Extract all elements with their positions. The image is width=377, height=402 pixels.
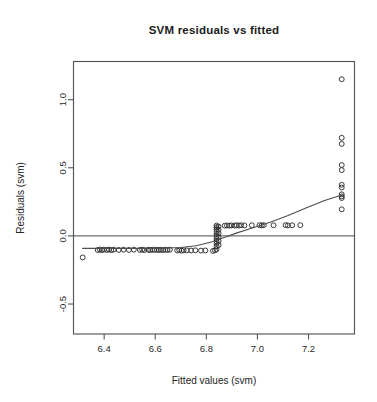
y-tick-label: 0.5 — [57, 161, 68, 174]
chart-title: SVM residuals vs fitted — [149, 24, 280, 36]
y-tick-label: 1.0 — [57, 93, 68, 106]
x-axis-title: Fitted values (svm) — [172, 375, 256, 386]
x-tick-label: 6.6 — [149, 343, 162, 354]
y-tick-label: 0.0 — [57, 229, 68, 242]
chart-container: SVM residuals vs fitted 6.46.66.87.07.2 … — [0, 0, 377, 402]
y-tick-label: -0.5 — [57, 296, 68, 312]
x-tick-label: 7.2 — [302, 343, 315, 354]
x-tick-label: 6.8 — [200, 343, 213, 354]
chart-background — [0, 0, 377, 402]
y-axis-title: Residuals (svm) — [15, 162, 26, 234]
x-tick-label: 7.0 — [251, 343, 264, 354]
svm-residuals-vs-fitted-chart: SVM residuals vs fitted 6.46.66.87.07.2 … — [0, 0, 377, 402]
x-tick-label: 6.4 — [98, 343, 111, 354]
